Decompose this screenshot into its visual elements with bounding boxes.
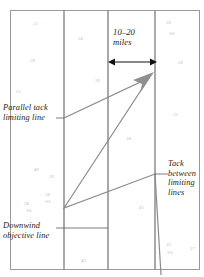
depth-sounding: 49	[34, 167, 39, 172]
depth-sounding: 34	[126, 136, 131, 141]
depth-sounding: 36	[166, 20, 171, 25]
label-downwind-objective-line: Downwind objective line	[3, 221, 67, 240]
label-distance-10-20-miles: 10–20 miles	[113, 28, 159, 48]
depth-sounding: Wk	[167, 250, 173, 255]
depth-sounding: Wk	[45, 199, 51, 204]
depth-sounding: 30	[95, 78, 100, 83]
depth-sounding: 33	[173, 112, 178, 117]
chart-figure: Parallel tack limiting line Tack between…	[0, 0, 204, 277]
depth-sounding: 34	[45, 192, 50, 197]
depth-sounding: 39	[49, 174, 54, 179]
depth-sounding: 28	[30, 58, 35, 63]
depth-sounding: 41	[139, 205, 144, 210]
depth-sounding: 43	[81, 258, 86, 263]
depth-sounding: 30	[178, 60, 183, 65]
label-tack-between-limiting-lines: Tack between limiting lines	[168, 159, 204, 197]
depth-sounding: 34	[24, 201, 29, 206]
label-parallel-tack-limiting-line: Parallel tack limiting line	[3, 103, 63, 122]
depth-sounding: 33	[166, 242, 171, 247]
depth-sounding: 21	[33, 21, 38, 26]
depth-sounding: Wk	[169, 31, 175, 36]
depth-sounding: 55	[16, 89, 21, 94]
depth-sounding: 27	[190, 246, 195, 251]
depth-sounding: 24	[78, 36, 83, 41]
depth-sounding: Wk	[26, 208, 32, 213]
